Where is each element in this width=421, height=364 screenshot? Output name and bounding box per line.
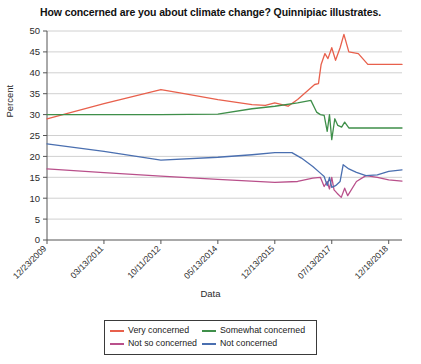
y-tick-label: 25 <box>29 130 40 141</box>
legend-item-somewhat-concerned[interactable]: Somewhat concerned <box>202 324 311 337</box>
x-tick-label: 12/18/2018 <box>353 243 391 281</box>
x-tick-label: 07/13/2017 <box>296 243 334 281</box>
data-series <box>47 34 402 197</box>
y-tick-label: 5 <box>35 214 40 225</box>
y-tick-label: 15 <box>29 172 40 183</box>
legend-item-not-concerned[interactable]: Not concerned <box>202 337 311 350</box>
legend-label-very-concerned: Very concerned <box>128 325 189 336</box>
legend-item-very-concerned[interactable]: Very concerned <box>110 324 202 337</box>
x-tick-label: 12/13/2015 <box>239 243 277 281</box>
series-line-not-concerned <box>47 144 402 187</box>
legend-item-not-so-concerned[interactable]: Not so concerned <box>110 337 202 350</box>
gridlines <box>47 31 402 219</box>
y-tick-label: 30 <box>29 109 40 120</box>
y-tick-label: 20 <box>29 151 40 162</box>
y-tick-label: 0 <box>35 234 40 245</box>
legend-label-somewhat-concerned: Somewhat concerned <box>220 325 305 336</box>
chart-legend: Very concerned Somewhat concerned Not so… <box>104 320 317 355</box>
chart-figure: How concerned are you about climate chan… <box>0 0 421 364</box>
series-line-very-concerned <box>47 34 402 118</box>
x-tick-label: 10/11/2012 <box>125 243 162 280</box>
x-tick-label: 12/23/2009 <box>11 243 49 281</box>
series-line-somewhat-concerned <box>47 100 402 139</box>
x-tick-label: 03/13/2011 <box>68 243 105 280</box>
y-tick-label: 40 <box>29 67 40 78</box>
y-tick-label: 10 <box>29 193 40 204</box>
y-tick-label: 50 <box>29 25 40 36</box>
y-tick-label: 35 <box>29 88 40 99</box>
legend-swatch-not-so-concerned <box>110 343 124 345</box>
plot-area: 05101520253035404550 12/23/200903/13/201… <box>0 0 421 310</box>
legend-swatch-not-concerned <box>202 343 216 345</box>
y-tick-label: 45 <box>29 46 40 57</box>
legend-swatch-somewhat-concerned <box>202 330 216 332</box>
legend-label-not-so-concerned: Not so concerned <box>128 338 197 349</box>
series-line-not-so-concerned <box>47 169 402 197</box>
x-axis-ticks: 12/23/200903/13/201110/11/201205/13/2014… <box>11 240 390 281</box>
legend-swatch-very-concerned <box>110 330 124 332</box>
x-tick-label: 05/13/2014 <box>182 243 220 281</box>
y-axis-ticks: 05101520253035404550 <box>29 25 47 245</box>
legend-label-not-concerned: Not concerned <box>220 338 277 349</box>
